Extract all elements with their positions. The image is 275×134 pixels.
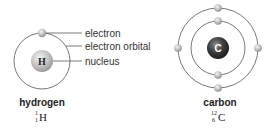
- carbon-electron: [254, 44, 262, 52]
- svg-text:1: 1: [35, 110, 38, 116]
- carbon-electron: [214, 4, 222, 12]
- carbon-atom: C: [174, 4, 262, 92]
- carbon-electron: [214, 71, 222, 79]
- label-nucleus: nucleus: [85, 56, 119, 67]
- hydrogen-isotope-notation: 1 1 H: [35, 110, 47, 123]
- hydrogen-atom: H: [14, 29, 70, 89]
- carbon-electron: [214, 17, 222, 25]
- carbon-electron: [174, 44, 182, 52]
- svg-text:H: H: [39, 111, 47, 123]
- svg-text:6: 6: [212, 117, 215, 123]
- carbon-nucleus-symbol: C: [214, 43, 221, 54]
- hydrogen-nucleus-symbol: H: [38, 56, 46, 67]
- label-electron-orbital: electron orbital: [85, 41, 151, 52]
- carbon-isotope-notation: 12 6 C: [211, 110, 225, 123]
- hydrogen-electron: [38, 29, 46, 37]
- svg-text:1: 1: [35, 117, 38, 123]
- atom-diagram: H electron electron orbital nucleus hydr…: [0, 0, 275, 134]
- hydrogen-name: hydrogen: [19, 97, 65, 108]
- svg-text:C: C: [218, 111, 225, 123]
- carbon-electron: [214, 84, 222, 92]
- label-electron: electron: [85, 28, 121, 39]
- carbon-name: carbon: [203, 97, 236, 108]
- svg-text:12: 12: [211, 110, 217, 116]
